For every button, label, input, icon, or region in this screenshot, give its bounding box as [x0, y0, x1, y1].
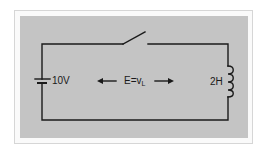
- inductor-label: 2H: [210, 77, 223, 87]
- emf-label: E=vL: [124, 76, 145, 87]
- inductor-icon: [228, 66, 233, 97]
- wire-bottom: [42, 83, 228, 120]
- switch-icon: [123, 32, 145, 44]
- wire-top-right: [148, 44, 228, 66]
- battery-label: 10V: [52, 76, 70, 86]
- wire-top-left: [42, 44, 123, 79]
- emf-label-subscript: L: [142, 80, 146, 87]
- emf-label-text: E=v: [124, 75, 142, 86]
